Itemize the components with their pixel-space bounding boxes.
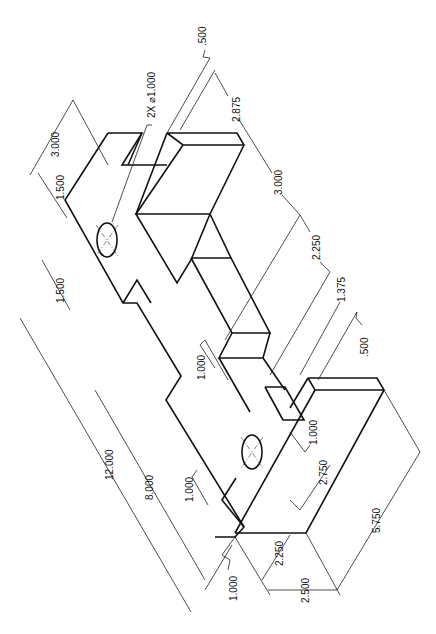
isometric-drawing: 12.000 8.000 1.500 1.500 3.000 2X ⌀1.000… — [0, 0, 436, 634]
holes — [96, 223, 263, 469]
dim-1500-lower: 1.500 — [55, 278, 66, 303]
dim-500-top: .500 — [197, 26, 208, 46]
dim-1000-left: 1.000 — [184, 477, 195, 502]
dimension-lines — [20, 50, 420, 612]
dim-1375: 1.375 — [336, 277, 347, 302]
dim-12000: 12.000 — [104, 449, 115, 480]
dim-hole-callout: 2X ⌀1.000 — [146, 72, 157, 118]
dim-1000-mid: 1.000 — [196, 355, 207, 380]
dim-1000-right: 1.000 — [308, 420, 319, 445]
hole-upper — [97, 223, 117, 257]
dimension-labels: 12.000 8.000 1.500 1.500 3.000 2X ⌀1.000… — [50, 26, 382, 603]
dim-2250-bottom: 2.250 — [274, 541, 285, 566]
dim-2875: 2.875 — [231, 97, 242, 122]
dim-2500: 2.500 — [300, 578, 311, 603]
dim-500-bottom: .500 — [359, 337, 370, 357]
dim-8000: 8.000 — [144, 475, 155, 500]
hole-lower — [242, 435, 262, 469]
dim-2750: 2.750 — [318, 460, 329, 485]
dim-1500-upper: 1.500 — [55, 175, 66, 200]
dim-2250: 2.250 — [311, 235, 322, 260]
dim-3000-right: 3.000 — [273, 170, 284, 195]
dim-5750: 5.750 — [371, 508, 382, 533]
dim-3000-top: 3.000 — [50, 132, 61, 157]
dim-1000-edge: 1.000 — [228, 576, 239, 601]
